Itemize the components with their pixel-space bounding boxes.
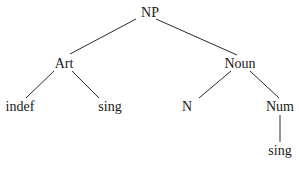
edge-np-noun xyxy=(156,19,237,55)
node-num: Num xyxy=(266,100,294,114)
edge-art-sing xyxy=(72,71,99,98)
node-sing-num: sing xyxy=(268,144,291,158)
edge-np-art xyxy=(70,19,136,54)
node-noun: Noun xyxy=(224,57,255,71)
node-n: N xyxy=(182,100,192,114)
node-art: Art xyxy=(55,57,74,71)
syntax-tree: NP Art Noun indef sing N Num sing xyxy=(0,0,299,170)
edge-noun-n xyxy=(199,71,231,98)
tree-edges xyxy=(0,0,299,170)
edge-noun-num xyxy=(250,71,279,98)
node-indef: indef xyxy=(6,100,35,114)
node-sing-art: sing xyxy=(98,100,121,114)
edge-art-indef xyxy=(26,71,54,98)
node-np: NP xyxy=(141,6,159,20)
